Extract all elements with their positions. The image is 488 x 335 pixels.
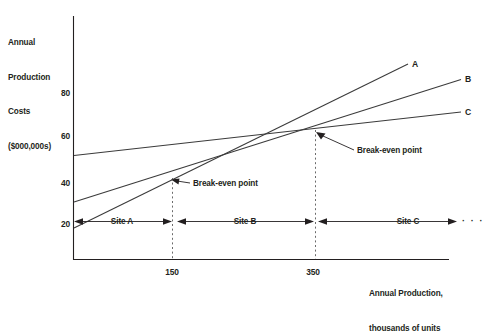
region-arrow-right-site-c [448, 218, 457, 224]
cost-line-b [74, 80, 461, 203]
cost-line-a [74, 64, 408, 228]
break-even-leader-350 [323, 136, 354, 150]
break-even-arrowhead-350 [316, 132, 326, 140]
region-arrow-left-site-b [177, 218, 186, 224]
region-arrow-right-site-a [163, 218, 172, 224]
region-arrow-left-site-a [74, 218, 83, 224]
region-arrow-right-site-b [305, 218, 314, 224]
cost-line-c [74, 112, 461, 156]
region-arrow-left-site-c [318, 218, 327, 224]
x-axis-title-line-2: thousands of units [369, 323, 488, 335]
